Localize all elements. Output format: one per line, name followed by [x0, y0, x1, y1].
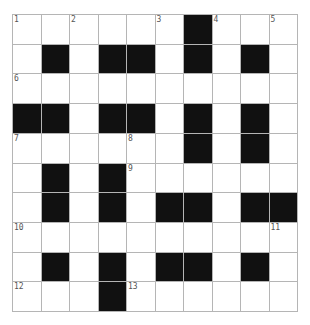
grid-cell-r1-c0[interactable] — [13, 45, 42, 75]
clue-number: 6 — [14, 75, 19, 83]
grid-cell-r1-c9[interactable] — [270, 45, 299, 75]
grid-cell-r6-c0[interactable] — [13, 193, 42, 223]
clue-number: 12 — [14, 283, 24, 291]
block-cell — [127, 45, 156, 75]
grid-cell-r0-c3[interactable] — [99, 15, 128, 45]
grid-cell-r1-c7[interactable] — [213, 45, 242, 75]
grid-cell-r4-c3[interactable] — [99, 134, 128, 164]
grid-cell-r5-c0[interactable] — [13, 164, 42, 194]
grid-cell-r5-c9[interactable] — [270, 164, 299, 194]
grid-cell-r0-c1[interactable] — [42, 15, 71, 45]
clue-number: 7 — [14, 135, 19, 143]
grid-cell-r0-c4[interactable] — [127, 15, 156, 45]
block-cell — [241, 45, 270, 75]
grid-cell-r9-c4[interactable]: 13 — [127, 282, 156, 312]
grid-cell-r6-c2[interactable] — [70, 193, 99, 223]
grid-cell-r2-c5[interactable] — [156, 74, 185, 104]
grid-cell-r7-c1[interactable] — [42, 223, 71, 253]
clue-number: 4 — [214, 16, 219, 24]
grid-cell-r5-c2[interactable] — [70, 164, 99, 194]
grid-cell-r3-c9[interactable] — [270, 104, 299, 134]
grid-cell-r9-c7[interactable] — [213, 282, 242, 312]
block-cell — [184, 193, 213, 223]
block-cell — [241, 253, 270, 283]
grid-cell-r4-c4[interactable]: 8 — [127, 134, 156, 164]
grid-cell-r4-c7[interactable] — [213, 134, 242, 164]
block-cell — [241, 134, 270, 164]
grid-cell-r9-c2[interactable] — [70, 282, 99, 312]
grid-cell-r4-c5[interactable] — [156, 134, 185, 164]
grid-cell-r9-c1[interactable] — [42, 282, 71, 312]
grid-cell-r2-c9[interactable] — [270, 74, 299, 104]
grid-cell-r6-c4[interactable] — [127, 193, 156, 223]
grid-cell-r7-c8[interactable] — [241, 223, 270, 253]
grid-cell-r9-c8[interactable] — [241, 282, 270, 312]
grid-cell-r0-c5[interactable]: 3 — [156, 15, 185, 45]
block-cell — [156, 193, 185, 223]
grid-cell-r0-c8[interactable] — [241, 15, 270, 45]
grid-cell-r8-c0[interactable] — [13, 253, 42, 283]
grid-cell-r9-c5[interactable] — [156, 282, 185, 312]
block-cell — [42, 104, 71, 134]
grid-cell-r5-c6[interactable] — [184, 164, 213, 194]
grid-cell-r0-c2[interactable]: 2 — [70, 15, 99, 45]
grid-cell-r4-c1[interactable] — [42, 134, 71, 164]
grid-cell-r2-c3[interactable] — [99, 74, 128, 104]
block-cell — [241, 193, 270, 223]
block-cell — [127, 104, 156, 134]
grid-cell-r3-c7[interactable] — [213, 104, 242, 134]
grid-cell-r7-c7[interactable] — [213, 223, 242, 253]
grid-cell-r7-c4[interactable] — [127, 223, 156, 253]
grid-cell-r0-c7[interactable]: 4 — [213, 15, 242, 45]
grid-cell-r4-c9[interactable] — [270, 134, 299, 164]
grid-cell-r8-c2[interactable] — [70, 253, 99, 283]
grid-cell-r8-c4[interactable] — [127, 253, 156, 283]
grid-cell-r2-c2[interactable] — [70, 74, 99, 104]
clue-number: 9 — [128, 165, 133, 173]
grid-cell-r2-c4[interactable] — [127, 74, 156, 104]
grid-cell-r1-c5[interactable] — [156, 45, 185, 75]
grid-cell-r0-c9[interactable]: 5 — [270, 15, 299, 45]
block-cell — [184, 253, 213, 283]
grid-cell-r7-c6[interactable] — [184, 223, 213, 253]
grid-cell-r3-c5[interactable] — [156, 104, 185, 134]
grid-cell-r2-c1[interactable] — [42, 74, 71, 104]
grid-cell-r8-c9[interactable] — [270, 253, 299, 283]
grid-cell-r2-c7[interactable] — [213, 74, 242, 104]
crossword-grid: 12345678910111213 — [12, 14, 298, 312]
block-cell — [184, 45, 213, 75]
grid-cell-r2-c0[interactable]: 6 — [13, 74, 42, 104]
grid-cell-r6-c7[interactable] — [213, 193, 242, 223]
grid-cell-r5-c5[interactable] — [156, 164, 185, 194]
grid-cell-r5-c4[interactable]: 9 — [127, 164, 156, 194]
clue-number: 5 — [271, 16, 276, 24]
block-cell — [99, 45, 128, 75]
grid-cell-r7-c5[interactable] — [156, 223, 185, 253]
grid-cell-r7-c3[interactable] — [99, 223, 128, 253]
grid-cell-r5-c7[interactable] — [213, 164, 242, 194]
block-cell — [99, 282, 128, 312]
grid-cell-r5-c8[interactable] — [241, 164, 270, 194]
grid-cell-r9-c0[interactable]: 12 — [13, 282, 42, 312]
grid-cell-r3-c2[interactable] — [70, 104, 99, 134]
grid-cell-r4-c2[interactable] — [70, 134, 99, 164]
grid-cell-r1-c2[interactable] — [70, 45, 99, 75]
grid-cell-r8-c7[interactable] — [213, 253, 242, 283]
grid-cell-r2-c8[interactable] — [241, 74, 270, 104]
grid-cell-r7-c0[interactable]: 10 — [13, 223, 42, 253]
block-cell — [184, 104, 213, 134]
grid-cell-r9-c6[interactable] — [184, 282, 213, 312]
block-cell — [184, 134, 213, 164]
block-cell — [42, 45, 71, 75]
clue-number: 13 — [128, 283, 138, 291]
clue-number: 11 — [271, 224, 281, 232]
grid-cell-r2-c6[interactable] — [184, 74, 213, 104]
grid-cell-r7-c9[interactable]: 11 — [270, 223, 299, 253]
block-cell — [184, 15, 213, 45]
clue-number: 2 — [71, 16, 76, 24]
grid-cell-r7-c2[interactable] — [70, 223, 99, 253]
grid-cell-r0-c0[interactable]: 1 — [13, 15, 42, 45]
grid-cell-r9-c9[interactable] — [270, 282, 299, 312]
grid-cell-r4-c0[interactable]: 7 — [13, 134, 42, 164]
block-cell — [42, 253, 71, 283]
